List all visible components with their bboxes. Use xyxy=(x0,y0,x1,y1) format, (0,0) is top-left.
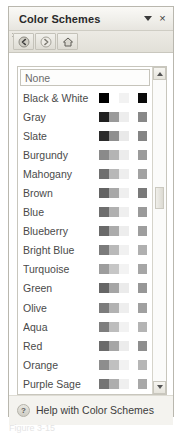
scheme-gradient-strip xyxy=(99,379,129,389)
list-item[interactable]: Purple Sage xyxy=(18,374,152,393)
scheme-color-cell xyxy=(109,207,119,217)
list-item-label: Aqua xyxy=(23,321,99,333)
scheme-accent-swatch xyxy=(138,112,147,122)
scheme-color-cell xyxy=(119,150,129,160)
scroll-up-button[interactable] xyxy=(153,67,166,80)
list-item-label: Orange xyxy=(23,359,99,371)
forward-button[interactable] xyxy=(35,33,56,50)
task-pane-titlebar: Color Schemes × xyxy=(9,7,173,31)
task-pane-footer: ? Help with Color Schemes xyxy=(9,395,173,425)
list-item-none[interactable]: None xyxy=(20,69,150,86)
scheme-color-cell xyxy=(119,93,129,103)
list-item[interactable]: Slate xyxy=(18,126,152,145)
scroll-down-button[interactable] xyxy=(153,381,166,394)
list-item[interactable]: Gray xyxy=(18,107,152,126)
scheme-accent-swatch xyxy=(138,322,147,332)
scheme-gradient-strip xyxy=(99,150,129,160)
scheme-color-cell xyxy=(119,322,129,332)
scheme-color-cell xyxy=(119,245,129,255)
scheme-color-cell xyxy=(99,226,109,236)
list-item[interactable]: Turquoise xyxy=(18,260,152,279)
home-icon xyxy=(62,36,74,48)
list-item-label: Bright Blue xyxy=(23,244,99,256)
list-item[interactable]: Blue xyxy=(18,203,152,222)
scheme-gradient-strip xyxy=(99,341,129,351)
scheme-color-cell xyxy=(119,303,129,313)
scheme-accent-swatch xyxy=(138,360,147,370)
scheme-color-cell xyxy=(109,283,119,293)
scheme-color-cell xyxy=(109,360,119,370)
scheme-color-cell xyxy=(109,93,119,103)
list-item[interactable]: Aqua xyxy=(18,317,152,336)
figure-caption: Figure 3-15 xyxy=(9,423,55,433)
scheme-color-cell xyxy=(109,188,119,198)
page-title: Color Schemes xyxy=(19,13,140,25)
list-item[interactable]: Blueberry xyxy=(18,222,152,241)
list-item[interactable]: Orange xyxy=(18,355,152,374)
list-item[interactable]: Brown xyxy=(18,183,152,202)
list-scrollbar[interactable] xyxy=(152,67,166,394)
close-button[interactable]: × xyxy=(155,11,170,26)
scheme-color-cell xyxy=(99,150,109,160)
scheme-color-cell xyxy=(99,264,109,274)
scheme-color-cell xyxy=(99,245,109,255)
scheme-accent-swatch xyxy=(138,264,147,274)
list-item-label: Green xyxy=(23,282,99,294)
scheme-color-cell xyxy=(109,264,119,274)
scheme-color-cell xyxy=(99,379,109,389)
list-item[interactable]: Bright Blue xyxy=(18,241,152,260)
list-item[interactable]: Burgundy xyxy=(18,145,152,164)
scheme-color-cell xyxy=(109,322,119,332)
scheme-color-cell xyxy=(109,303,119,313)
list-item-label: None xyxy=(25,72,147,84)
forward-arrow-icon xyxy=(40,36,52,48)
scheme-gradient-strip xyxy=(99,360,129,370)
scheme-accent-swatch xyxy=(138,283,147,293)
scheme-color-cell xyxy=(99,112,109,122)
task-pane-dropdown-button[interactable] xyxy=(140,11,155,26)
list-item-label: Purple Sage xyxy=(23,378,99,390)
scrollbar-thumb[interactable] xyxy=(155,187,164,209)
color-scheme-list-container: None Black & WhiteGraySlateBurgundyMahog… xyxy=(17,66,167,395)
scheme-color-cell xyxy=(99,283,109,293)
scheme-color-cell xyxy=(119,341,129,351)
scheme-color-cell xyxy=(119,283,129,293)
home-button[interactable] xyxy=(57,33,78,50)
scheme-color-cell xyxy=(119,226,129,236)
list-item-label: Mahogany xyxy=(23,168,99,180)
list-item[interactable]: Red xyxy=(18,336,152,355)
scroll-up-icon xyxy=(157,72,163,76)
scheme-color-cell xyxy=(99,131,109,141)
scheme-gradient-strip xyxy=(99,303,129,313)
list-item[interactable]: Mahogany xyxy=(18,164,152,183)
list-item-label: Turquoise xyxy=(23,263,99,275)
task-pane-body: None Black & WhiteGraySlateBurgundyMahog… xyxy=(9,53,173,395)
scheme-accent-swatch xyxy=(138,245,147,255)
scheme-gradient-strip xyxy=(99,93,129,103)
scheme-accent-swatch xyxy=(138,188,147,198)
scheme-gradient-strip xyxy=(99,322,129,332)
list-item-label: Red xyxy=(23,340,99,352)
list-item-label: Slate xyxy=(23,130,99,142)
list-item[interactable]: Olive xyxy=(18,298,152,317)
help-link[interactable]: Help with Color Schemes xyxy=(36,404,154,416)
scheme-gradient-strip xyxy=(99,283,129,293)
list-item[interactable]: Black & White xyxy=(18,88,152,107)
scheme-color-cell xyxy=(119,169,129,179)
scheme-color-cell xyxy=(99,322,109,332)
scheme-gradient-strip xyxy=(99,112,129,122)
color-schemes-task-pane: Color Schemes × xyxy=(8,6,174,417)
scheme-gradient-strip xyxy=(99,226,129,236)
scheme-color-cell xyxy=(99,303,109,313)
list-item-label: Gray xyxy=(23,111,99,123)
list-item-label: Olive xyxy=(23,302,99,314)
list-item[interactable]: Green xyxy=(18,279,152,298)
color-scheme-list[interactable]: None Black & WhiteGraySlateBurgundyMahog… xyxy=(18,67,152,394)
scheme-color-cell xyxy=(109,112,119,122)
list-item-label: Blueberry xyxy=(23,225,99,237)
scheme-color-cell xyxy=(99,360,109,370)
back-button[interactable] xyxy=(13,33,34,50)
list-item-label: Blue xyxy=(23,206,99,218)
task-pane-navigation-toolbar xyxy=(9,31,173,53)
scheme-color-cell xyxy=(109,245,119,255)
